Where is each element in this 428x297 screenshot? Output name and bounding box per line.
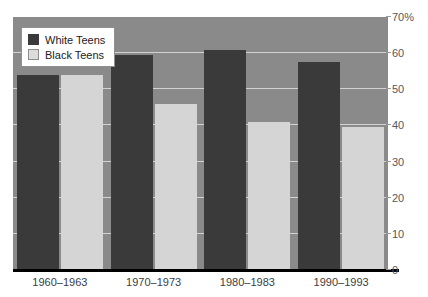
legend-item-white-teens[interactable]: White Teens bbox=[28, 32, 105, 47]
legend-item-black-teens[interactable]: Black Teens bbox=[28, 47, 105, 62]
y-axis-tick-label-20: 20 bbox=[392, 192, 428, 204]
x-axis: 1960–19631970–19731980–19831990–1993 bbox=[13, 274, 388, 294]
y-axis-tick-mark-70 bbox=[386, 16, 391, 17]
y-axis-tick-label-10: 10 bbox=[392, 228, 428, 240]
chart-title bbox=[8, 0, 308, 5]
legend-label: Black Teens bbox=[45, 49, 104, 61]
legend-swatch-icon-black-teens bbox=[28, 49, 39, 60]
bar-white-teens-1 bbox=[111, 55, 153, 270]
y-axis: 010203040506070% bbox=[392, 17, 428, 270]
x-axis-tick-label-2: 1980–1983 bbox=[201, 274, 295, 290]
x-axis-baseline bbox=[13, 269, 399, 272]
y-axis-tick-mark-20 bbox=[386, 197, 391, 198]
legend-label: White Teens bbox=[45, 34, 105, 46]
y-axis-tick-mark-10 bbox=[386, 233, 391, 234]
y-axis-tick-label-0: 0 bbox=[392, 264, 428, 276]
y-axis-tick-mark-50 bbox=[386, 88, 391, 89]
y-axis-tick-label-50: 50 bbox=[392, 83, 428, 95]
bar-white-teens-3 bbox=[298, 62, 340, 270]
y-axis-tick-label-30: 30 bbox=[392, 156, 428, 168]
bar-black-teens-2 bbox=[248, 122, 290, 270]
bar-chart-figure: 010203040506070% 1960–19631970–19731980–… bbox=[0, 0, 428, 297]
y-axis-tick-mark-30 bbox=[386, 161, 391, 162]
x-axis-tick-label-3: 1990–1993 bbox=[294, 274, 388, 290]
y-axis-tick-mark-40 bbox=[386, 124, 391, 125]
legend-swatch-icon-white-teens bbox=[28, 34, 39, 45]
y-axis-tick-label-70: 70% bbox=[392, 11, 428, 23]
x-axis-tick-label-0: 1960–1963 bbox=[13, 274, 107, 290]
bar-black-teens-0 bbox=[61, 75, 103, 270]
chart-legend: White TeensBlack Teens bbox=[21, 27, 115, 67]
bar-black-teens-1 bbox=[155, 104, 197, 270]
y-axis-tick-mark-0 bbox=[386, 269, 391, 270]
bar-white-teens-2 bbox=[204, 50, 246, 270]
bar-white-teens-0 bbox=[17, 75, 59, 270]
y-axis-tick-mark-60 bbox=[386, 52, 391, 53]
y-axis-tick-label-60: 60 bbox=[392, 47, 428, 59]
x-axis-tick-label-1: 1970–1973 bbox=[107, 274, 201, 290]
y-axis-tick-label-40: 40 bbox=[392, 119, 428, 131]
bar-black-teens-3 bbox=[342, 127, 384, 270]
